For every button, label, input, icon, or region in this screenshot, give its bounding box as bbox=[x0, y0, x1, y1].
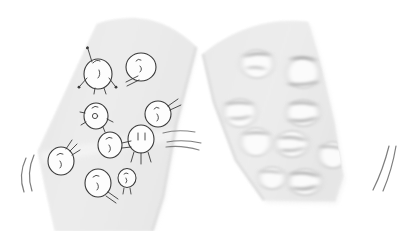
left-panel-fibre bbox=[38, 18, 196, 231]
ghost-creature-bottom-left bbox=[259, 167, 285, 189]
left-panel bbox=[38, 18, 197, 231]
scene-svg bbox=[0, 0, 417, 231]
right-motion-arcs bbox=[373, 146, 396, 191]
illustration-canvas: Two splitting paper panels with doodle c… bbox=[0, 0, 417, 231]
doodle-creature-tall-legs bbox=[128, 125, 154, 164]
left-motion-arcs bbox=[21, 155, 34, 192]
right-panel bbox=[203, 21, 347, 204]
ghost-creature-lower-center bbox=[276, 131, 308, 157]
